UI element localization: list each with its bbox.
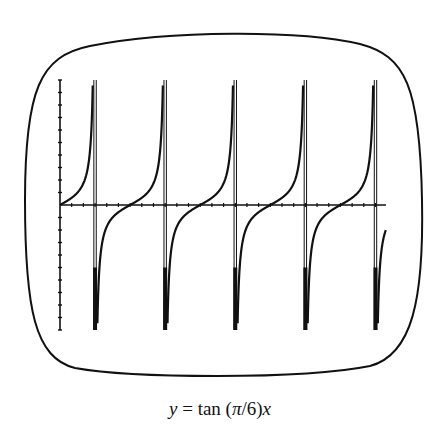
caption-rest: /6) xyxy=(241,398,262,419)
tan-branch xyxy=(60,85,93,205)
calculator-screen xyxy=(0,0,440,428)
tan-branch xyxy=(378,230,386,323)
chart-caption: y = tan (π/6)x xyxy=(0,398,440,420)
caption-eq: = tan ( xyxy=(177,398,232,419)
caption-x: x xyxy=(263,398,271,419)
plot-area xyxy=(58,80,386,330)
